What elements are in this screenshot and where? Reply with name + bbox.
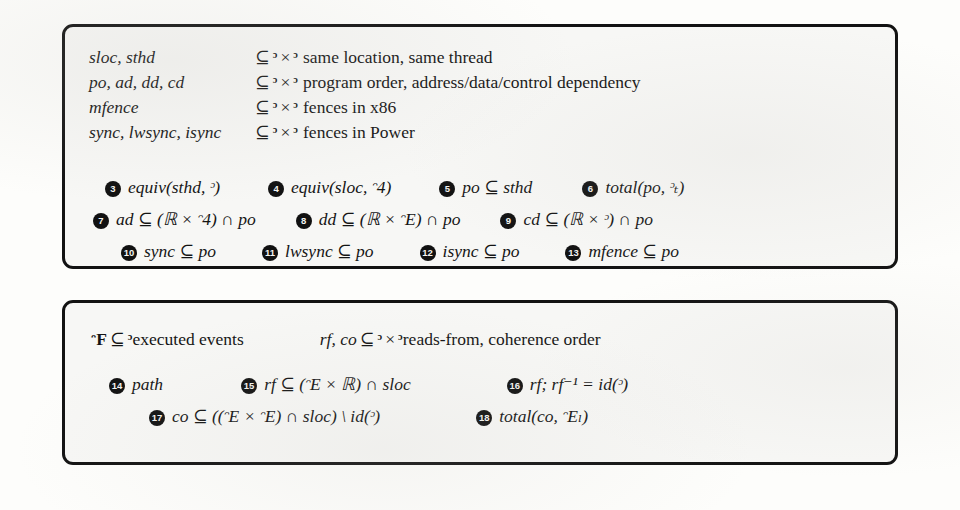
declaration-names: po, ad, dd, cd (89, 72, 252, 93)
times-symbol: × (277, 72, 293, 92)
clause-number-badge: 14 (109, 378, 125, 394)
clause-row-group: 17 co ⊆ ((ᵔE × ᵔE) ∩ sloc) \ id(ᵓ) 18 to… (65, 408, 895, 436)
clause-3: 3 equiv(sthd, ᵓ) (105, 179, 220, 198)
times-symbol: × (277, 97, 293, 117)
clause-number-badge: 5 (439, 181, 455, 197)
declaration-description: same location, same thread (298, 47, 493, 67)
declaration-names: sync, lwsync, isync (89, 122, 252, 143)
clause-formula: mfence ⊆ po (588, 243, 678, 261)
declaration-description: program order, address/data/control depe… (298, 72, 641, 92)
clause-4: 4 equiv(sloc, ᵔ4) (268, 179, 391, 198)
clause-row-group: 10 sync ⊆ po 11 lwsync ⊆ po 12 isync ⊆ p… (65, 243, 895, 271)
subset-symbol: ⊆ (252, 97, 273, 117)
clause-10: 10 sync ⊆ po (121, 243, 216, 262)
clause-9: 9 cd ⊆ (ℝ × ᵓ) ∩ po (500, 211, 653, 230)
clause-row: 3 equiv(sthd, ᵓ) 4 equiv(sloc, ᵔ4) 5 po … (65, 179, 895, 207)
clause-7: 7 ad ⊆ (ℝ × ᵔ4) ∩ po (93, 211, 256, 230)
times-symbol: × (277, 47, 293, 67)
declaration-row: sync, lwsync, isync ⊆ᵓ×ᵓfences in Power (89, 122, 641, 147)
execution-witness-panel: ᵔF⊆ᵓexecuted events rf, co⊆ᵓ×ᵓreads-from… (62, 300, 898, 465)
clause-number-badge: 13 (565, 245, 581, 261)
clause-number-badge: 8 (296, 213, 312, 229)
declaration-type: ⊆ᵓ×ᵓfences in x86 (252, 97, 396, 118)
declaration-description: fences in x86 (298, 97, 396, 117)
clause-number-badge: 9 (500, 213, 516, 229)
clause-formula: rf; rf⁻¹ = id(ᵓ) (530, 376, 628, 394)
declaration-row: mfence ⊆ᵓ×ᵓfences in x86 (89, 97, 641, 122)
clause-number-badge: 4 (268, 181, 284, 197)
executed-set-symbol: ᵔF (91, 331, 107, 349)
clause-number-badge: 17 (149, 410, 165, 426)
clause-17: 17 co ⊆ ((ᵔE × ᵔE) ∩ sloc) \ id(ᵓ) (149, 408, 380, 427)
declaration-type: ⊆ᵓ×ᵓprogram order, address/data/control … (252, 72, 641, 93)
clause-number-badge: 16 (507, 378, 523, 394)
clause-row-group: 7 ad ⊆ (ℝ × ᵔ4) ∩ po 8 dd ⊆ (ℝ × ᵔE) ∩ p… (65, 211, 895, 239)
clause-row: 14 path 15 rf ⊆ (ᵔE × ℝ) ∩ sloc 16 rf; r… (65, 376, 895, 404)
clause-formula: path (132, 376, 163, 394)
clause-8: 8 dd ⊆ (ℝ × ᵔE) ∩ po (296, 211, 461, 230)
declaration-table: sloc, sthd ⊆ᵓ×ᵓsame location, same threa… (89, 47, 641, 147)
subset-symbol: ⊆ (252, 72, 273, 92)
clause-formula: dd ⊆ (ℝ × ᵔE) ∩ po (319, 211, 461, 229)
clause-number-badge: 10 (121, 245, 137, 261)
times-symbol: × (277, 122, 293, 142)
declaration-type: ⊆ᵓ×ᵓsame location, same thread (252, 47, 493, 68)
rf-co-declaration: rf, co⊆ᵓ×ᵓreads-from, coherence order (320, 331, 601, 349)
clause-formula: equiv(sloc, ᵔ4) (291, 179, 391, 197)
declaration-names: mfence (89, 97, 252, 118)
clause-formula: cd ⊆ (ℝ × ᵓ) ∩ po (523, 211, 653, 229)
declaration-description: fences in Power (298, 122, 415, 142)
subset-symbol: ⊆ (357, 331, 378, 349)
clause-5: 5 po ⊆ sthd (439, 179, 532, 198)
clause-formula: total(co, ᵔEₗ) (499, 408, 588, 426)
clause-formula: co ⊆ ((ᵔE × ᵔE) ∩ sloc) \ id(ᵓ) (172, 408, 380, 426)
executed-events-declaration: ᵔF⊆ᵓexecuted events (91, 331, 244, 349)
execution-header: ᵔF⊆ᵓexecuted events rf, co⊆ᵓ×ᵓreads-from… (91, 331, 601, 349)
clause-row: 7 ad ⊆ (ℝ × ᵔ4) ∩ po 8 dd ⊆ (ℝ × ᵔE) ∩ p… (65, 211, 895, 239)
clause-number-badge: 12 (420, 245, 436, 261)
clause-14: 14 path (109, 376, 163, 395)
clause-formula: po ⊆ sthd (462, 179, 532, 197)
clause-formula: ad ⊆ (ℝ × ᵔ4) ∩ po (116, 211, 256, 229)
clause-number-badge: 11 (262, 245, 278, 261)
clause-row-group: 14 path 15 rf ⊆ (ᵔE × ℝ) ∩ sloc 16 rf; r… (65, 376, 895, 404)
figure-sheet: sloc, sthd ⊆ᵓ×ᵓsame location, same threa… (0, 0, 960, 510)
executed-events-description: executed events (133, 331, 244, 349)
clause-13: 13 mfence ⊆ po (565, 243, 678, 262)
clause-number-badge: 6 (582, 181, 598, 197)
clause-number-badge: 3 (105, 181, 121, 197)
times-symbol: × (382, 331, 398, 349)
clause-number-badge: 18 (476, 410, 492, 426)
clause-row: 17 co ⊆ ((ᵔE × ᵔE) ∩ sloc) \ id(ᵓ) 18 to… (65, 408, 895, 436)
clause-16: 16 rf; rf⁻¹ = id(ᵓ) (507, 376, 628, 395)
clause-number-badge: 7 (93, 213, 109, 229)
clause-formula: sync ⊆ po (144, 243, 216, 261)
rf-co-description: reads-from, coherence order (403, 331, 601, 349)
subset-symbol: ⊆ (252, 47, 273, 67)
declaration-row: po, ad, dd, cd ⊆ᵓ×ᵓprogram order, addres… (89, 72, 641, 97)
clause-18: 18 total(co, ᵔEₗ) (476, 408, 588, 427)
subset-symbol: ⊆ (252, 122, 273, 142)
clause-12: 12 isync ⊆ po (420, 243, 520, 262)
declaration-type: ⊆ᵓ×ᵓfences in Power (252, 122, 415, 143)
rf-co-names: rf, co (320, 331, 357, 349)
relation-declarations-panel: sloc, sthd ⊆ᵓ×ᵓsame location, same threa… (62, 24, 898, 269)
subset-symbol: ⊆ (107, 331, 128, 349)
clause-formula: isync ⊆ po (443, 243, 520, 261)
clause-formula: rf ⊆ (ᵔE × ℝ) ∩ sloc (264, 376, 411, 394)
clause-6: 6 total(po, ᵓₜ) (582, 179, 684, 198)
clause-row-group: 3 equiv(sthd, ᵓ) 4 equiv(sloc, ᵔ4) 5 po … (65, 179, 895, 207)
clause-number-badge: 15 (241, 378, 257, 394)
clause-formula: lwsync ⊆ po (285, 243, 374, 261)
clause-row: 10 sync ⊆ po 11 lwsync ⊆ po 12 isync ⊆ p… (65, 243, 895, 271)
declaration-names: sloc, sthd (89, 47, 252, 68)
declaration-row: sloc, sthd ⊆ᵓ×ᵓsame location, same threa… (89, 47, 641, 72)
clause-11: 11 lwsync ⊆ po (262, 243, 374, 262)
clause-formula: total(po, ᵓₜ) (605, 179, 684, 197)
clause-15: 15 rf ⊆ (ᵔE × ℝ) ∩ sloc (241, 376, 411, 395)
clause-formula: equiv(sthd, ᵓ) (128, 179, 220, 197)
